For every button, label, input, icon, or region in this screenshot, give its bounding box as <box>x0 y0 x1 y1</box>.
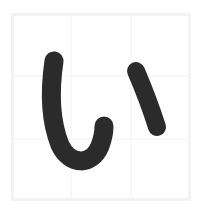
practice-box <box>11 13 191 201</box>
character-canvas: い i hiragana <box>0 0 204 215</box>
